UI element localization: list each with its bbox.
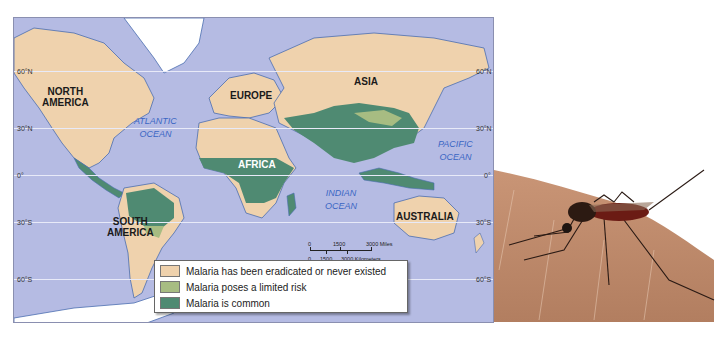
scale-tick	[340, 247, 341, 251]
legend-swatch-eradicated	[160, 265, 180, 277]
label-africa: AFRICA	[238, 159, 276, 170]
scale-tick	[310, 247, 311, 251]
label-pacific-ocean: PACIFIC OCEAN	[438, 138, 473, 164]
skin	[494, 170, 714, 322]
scale-bar	[310, 250, 372, 251]
legend-item-eradicated: Malaria has been eradicated or never exi…	[160, 264, 386, 278]
mosquito-on-skin-image	[494, 150, 727, 337]
mosquito-photo	[494, 150, 727, 337]
legend-item-limited: Malaria poses a limited risk	[160, 280, 307, 294]
scale-tick	[347, 250, 348, 254]
latitude-line-60n	[14, 71, 493, 72]
mosquito-head	[562, 223, 572, 233]
lat-label-60n-right: 60°N	[476, 68, 492, 75]
legend-item-common: Malaria is common	[160, 296, 270, 310]
label-south-america: SOUTH AMERICA	[107, 216, 154, 238]
legend-swatch-limited	[160, 281, 180, 293]
lat-label-equator-right: 0°	[484, 172, 491, 179]
indonesia	[359, 168, 434, 190]
lat-label-60s-left: 60°S	[17, 276, 32, 283]
latitude-line-30s	[14, 222, 493, 223]
scale-tick	[326, 250, 327, 254]
madagascar	[287, 193, 296, 216]
label-indian-ocean: INDIAN OCEAN	[325, 187, 357, 213]
label-asia: ASIA	[354, 76, 378, 87]
lat-label-30n-right: 30°N	[476, 125, 492, 132]
label-north-america: NORTH AMERICA	[42, 86, 89, 108]
lat-label-30n-left: 30°N	[17, 125, 33, 132]
legend-swatch-common	[160, 297, 180, 309]
lat-label-60s-right: 60°S	[476, 276, 491, 283]
label-europe: EUROPE	[230, 90, 272, 101]
scale-miles-3000: 3000 Miles	[366, 241, 393, 247]
legend-label-common: Malaria is common	[186, 298, 270, 309]
lat-label-60n-left: 60°N	[17, 68, 33, 75]
label-atlantic-ocean: ATLANTIC OCEAN	[134, 115, 177, 141]
legend-label-limited: Malaria poses a limited risk	[186, 282, 307, 293]
label-australia: AUSTRALIA	[396, 211, 454, 222]
greenland	[124, 18, 204, 73]
lat-label-30s-left: 30°S	[17, 219, 32, 226]
legend-label-eradicated: Malaria has been eradicated or never exi…	[186, 266, 386, 277]
latitude-line-equator	[14, 175, 493, 176]
latitude-line-30n	[14, 128, 493, 129]
lat-label-30s-right: 30°S	[476, 219, 491, 226]
lat-label-equator-left: 0°	[17, 172, 24, 179]
scale-tick	[371, 247, 372, 251]
new-zealand	[474, 233, 484, 253]
central-america	[74, 158, 124, 198]
map-legend: Malaria has been eradicated or never exi…	[154, 260, 408, 313]
